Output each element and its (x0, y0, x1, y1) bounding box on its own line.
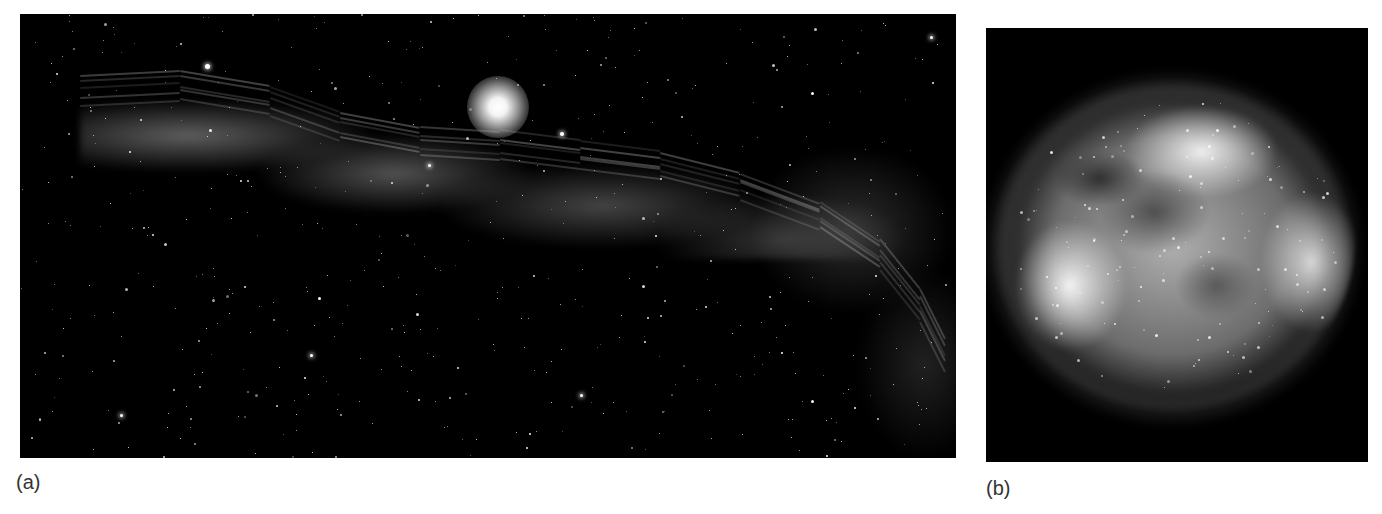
supernova-remnant (990, 78, 1355, 413)
panel-a-label: (a) (16, 471, 40, 494)
panel-a-image (20, 14, 956, 458)
panel-b-label: (b) (986, 477, 1010, 500)
remnant-outer-rim (986, 68, 1365, 428)
panel-b-image (986, 28, 1368, 462)
